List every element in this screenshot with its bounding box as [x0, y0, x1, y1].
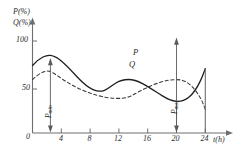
chart-figure: P(%) Q(%) 100 50 0 4 8 12 16 20 24 t(h) … [0, 0, 242, 159]
x-tick-label-24: 24 [201, 135, 209, 143]
curve-p-solid [33, 55, 206, 101]
y-axis-label-q: Q(%) [13, 19, 31, 27]
x-tick-label-12: 12 [114, 135, 122, 143]
y-axis [30, 18, 37, 134]
curve-label-q: Q [129, 60, 135, 69]
x-tick-label-16: 16 [143, 135, 151, 143]
curve-label-p: P [133, 48, 138, 57]
y-tick-label-50: 50 [22, 84, 30, 92]
y-axis-label-p: P(%) [13, 8, 30, 16]
x-tick-label-8: 8 [88, 135, 92, 143]
x-tick-label-20: 20 [172, 135, 180, 143]
annotation-label-pmax: Pmax [170, 100, 179, 114]
x-axis-arrowhead [226, 130, 233, 136]
origin-label-0: 0 [26, 133, 30, 141]
annotation-label-pmax-main: P [170, 109, 179, 114]
annotation-label-pmax-sub: max [173, 100, 179, 109]
x-tick-label-4: 4 [59, 135, 63, 143]
annotation-pmax-arrow [174, 38, 179, 133]
annotation-pmin-arrow [48, 58, 53, 133]
annotation-label-pmin-sub: min [47, 105, 53, 113]
y-tick-label-100: 100 [16, 36, 28, 44]
annotation-label-pmin-main: P [44, 113, 53, 118]
x-axis-label: t(h) [213, 136, 225, 144]
annotation-label-pmin: Pmin [44, 105, 53, 118]
curve-q-dashed [33, 71, 206, 109]
